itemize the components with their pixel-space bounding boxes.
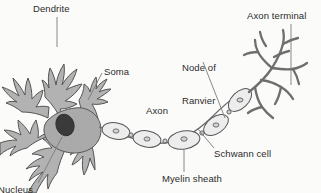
- label-node-of-ranvier-line1: Node of: [182, 62, 216, 73]
- neuron-diagram-figure: Dendrite Axon terminal Node of Ranvier S…: [0, 0, 321, 193]
- label-axon: Axon: [146, 105, 168, 116]
- label-soma: Soma: [104, 66, 129, 77]
- neuron-illustration: [0, 0, 321, 193]
- label-schwann-cell: Schwann cell: [214, 148, 271, 159]
- schwann-nucleus: [237, 98, 243, 102]
- node-of-ranvier-gap: [163, 139, 167, 143]
- schwann-nucleus: [144, 137, 150, 141]
- label-axon-terminal: Axon terminal: [247, 10, 306, 21]
- label-dendrite: Dendrite: [33, 3, 70, 14]
- label-node-of-ranvier-line2: Ranvier: [182, 95, 216, 106]
- node-of-ranvier-gap: [227, 110, 231, 114]
- label-node-of-ranvier: Node of Ranvier: [182, 40, 216, 128]
- label-nucleus: Nucleus: [0, 184, 33, 193]
- schwann-nucleus: [113, 129, 119, 133]
- label-myelin-sheath: Myelin sheath: [162, 173, 222, 184]
- schwann-nucleus: [181, 137, 187, 141]
- node-of-ranvier-gap: [129, 133, 133, 137]
